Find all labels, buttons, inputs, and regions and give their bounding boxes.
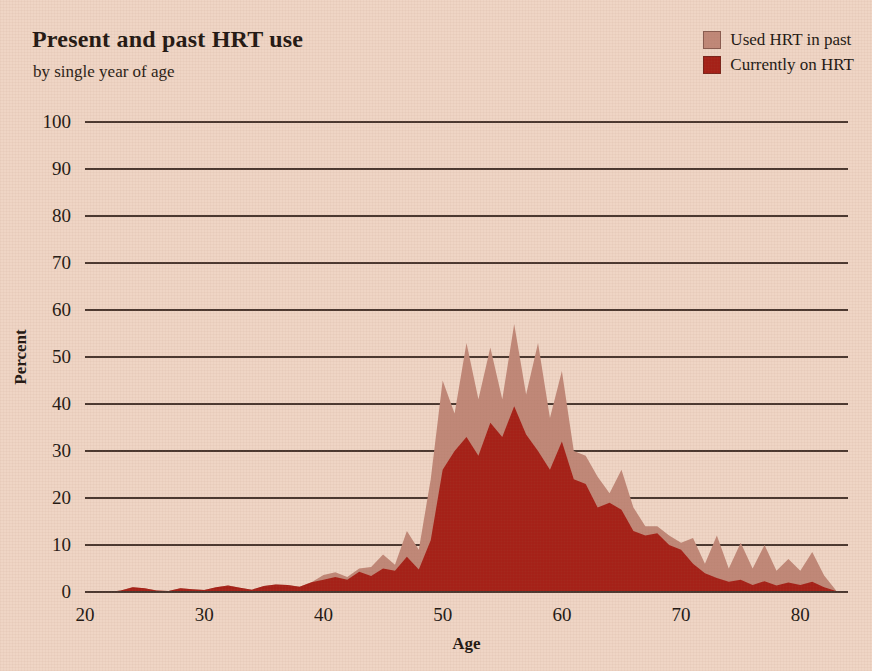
xtick-label-60: 60 xyxy=(552,604,571,625)
xtick-label-50: 50 xyxy=(433,604,452,625)
ytick-label-80: 80 xyxy=(52,205,71,226)
ytick-label-70: 70 xyxy=(52,252,71,273)
x-axis-title: Age xyxy=(452,634,481,653)
chart-svg: 010203040506070809010020304050607080AgeP… xyxy=(0,0,872,671)
ytick-label-10: 10 xyxy=(52,534,71,555)
plot-area: 010203040506070809010020304050607080AgeP… xyxy=(0,0,872,671)
ytick-label-30: 30 xyxy=(52,440,71,461)
xtick-label-40: 40 xyxy=(314,604,333,625)
ytick-label-40: 40 xyxy=(52,393,71,414)
y-axis-title: Percent xyxy=(11,329,30,385)
ytick-label-100: 100 xyxy=(43,111,72,132)
ytick-label-50: 50 xyxy=(52,346,71,367)
ytick-label-20: 20 xyxy=(52,487,71,508)
xtick-label-70: 70 xyxy=(672,604,691,625)
ytick-label-0: 0 xyxy=(62,581,72,602)
xtick-label-80: 80 xyxy=(791,604,810,625)
ytick-label-90: 90 xyxy=(52,158,71,179)
ytick-label-60: 60 xyxy=(52,299,71,320)
chart-figure: Present and past HRT use by single year … xyxy=(0,0,872,671)
xtick-label-30: 30 xyxy=(195,604,214,625)
xtick-label-20: 20 xyxy=(76,604,95,625)
